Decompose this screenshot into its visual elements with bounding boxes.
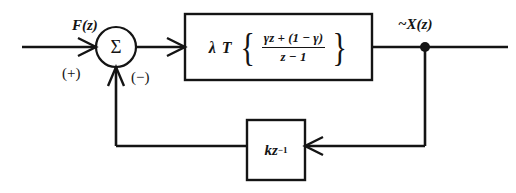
positive-input-sign: (+) bbox=[62, 66, 80, 81]
input-label: F(z) bbox=[72, 18, 98, 33]
fraction-denominator: z − 1 bbox=[278, 48, 308, 65]
output-label: ~X(z) bbox=[398, 17, 432, 32]
forward-gain-label: λ T bbox=[209, 39, 233, 57]
sigma-symbol: Σ bbox=[96, 27, 136, 67]
left-brace: { bbox=[240, 31, 254, 65]
feedback-exponent: −1 bbox=[278, 145, 288, 155]
feedback-block-expression: kz−1 bbox=[247, 120, 305, 180]
block-diagram: F(z) ~X(z) Σ (+) (−) λ T { γz + (1 − γ) … bbox=[0, 0, 516, 193]
forward-block-expression: λ T { γz + (1 − γ) z − 1 } bbox=[186, 15, 372, 80]
negative-input-sign: (−) bbox=[131, 70, 149, 85]
transfer-function-fraction: γz + (1 − γ) z − 1 bbox=[262, 30, 325, 66]
feedback-gain-label: kz bbox=[265, 142, 278, 159]
right-brace: } bbox=[332, 31, 346, 65]
fraction-numerator: γz + (1 − γ) bbox=[262, 30, 325, 47]
output-junction-dot bbox=[420, 42, 430, 52]
